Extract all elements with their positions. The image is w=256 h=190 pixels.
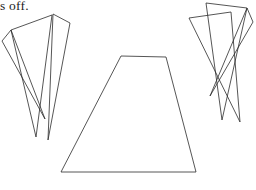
left-sliver-triangle-c (2, 30, 45, 119)
right-triangle-a (206, 3, 247, 120)
scanned-page: s off. (0, 0, 256, 190)
left-triangle-a (11, 15, 52, 137)
left-triangle-b (48, 14, 70, 140)
line-art-geometric-figure (0, 0, 256, 190)
center-trapezoid (61, 56, 196, 172)
